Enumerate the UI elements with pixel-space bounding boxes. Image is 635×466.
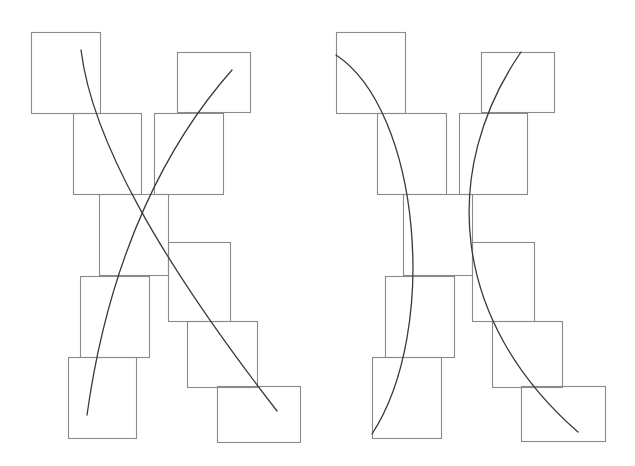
box (337, 33, 406, 114)
box (404, 195, 473, 276)
box (169, 243, 231, 322)
box (373, 358, 442, 439)
curve-line (81, 50, 277, 411)
box (218, 387, 301, 443)
box (460, 114, 528, 195)
box (386, 277, 455, 358)
curve-line (336, 55, 413, 434)
left-diagram (32, 33, 301, 443)
right-diagram (336, 33, 606, 442)
box (32, 33, 101, 114)
box (100, 195, 169, 276)
box (522, 387, 606, 442)
box (473, 243, 535, 322)
box (74, 114, 142, 195)
box (69, 358, 137, 439)
diagram-canvas (0, 0, 635, 466)
box (188, 322, 258, 388)
box (178, 53, 251, 113)
